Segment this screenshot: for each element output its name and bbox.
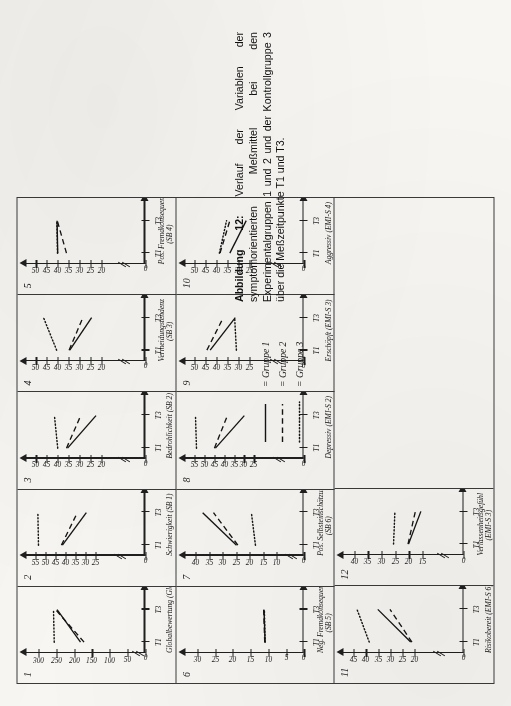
series-line-dotted [234,318,236,351]
series-lines [348,592,463,653]
y-tick-label: 20 [245,558,254,565]
y-tick-label: 0 [299,655,308,659]
series-line-dashed [408,512,415,545]
y-tick-label: 15 [258,558,267,565]
x-tick-label: T1 [153,541,162,549]
series-lines [31,204,145,264]
y-tick-label: 55 [30,558,39,565]
panel-axis-title: Bedrohlichkeit (SB 2) [165,398,173,458]
y-tick-label: 50 [190,364,199,371]
panel-number: 6 [180,672,191,677]
panel-axis-title: Aggressiv (EMI-S 4) [324,204,332,264]
y-tick-label: 250 [51,655,60,666]
y-tick-label: 35 [70,558,79,565]
panel-axis-title: Schwierigkeit (SB 1) [165,496,173,556]
caption-label: Abbildung 12: [232,215,244,302]
y-tick-label: 45 [42,461,51,468]
series-line-dotted [43,318,56,351]
panel-number: 3 [21,478,32,483]
y-tick-label: 0 [458,655,467,659]
series-line-dashed [219,221,229,254]
panel-axis-title: Neg. Fremdkonsequenz(SB 5) [316,593,332,653]
x-tick-label: T3 [311,217,320,225]
y-tick-label: 40 [349,558,358,565]
y-tick-label: 0 [299,461,308,465]
panel-axis-title-line1: Globalbewertung (Glob) [165,593,173,653]
x-tick-label: T3 [311,314,320,322]
y-tick-label: 15 [246,655,255,662]
y-tick-label: 25 [231,558,240,565]
y-tick-label: 35 [64,461,73,468]
series-line-dotted [393,512,394,545]
y-tick-label: 30 [233,364,242,371]
y-tick-label: 25 [210,655,219,662]
panel-axis-title-line1: Erschöpft (EMI-S 3) [324,301,332,361]
panel-number: 9 [180,380,191,385]
plot-area: 0152025303540T1T3Verlassenheitsgefühl(EM… [348,495,463,556]
x-tick-label: T1 [471,638,480,646]
x-tick-label: T3 [153,606,162,614]
plot-area: 020253035404550T1T3Vermeidungstendenz(SB… [31,301,145,361]
y-tick-label: 45 [50,558,59,565]
panel-axis-title: Depressiv (EMI-S 2) [324,398,332,458]
series-line-solid [62,512,86,545]
y-tick-label: 30 [80,558,89,565]
series-lines [31,593,145,653]
panel-number: 1 [21,672,32,677]
x-tick-label: T1 [311,249,320,257]
y-tick-label: 35 [64,364,73,371]
legend-item-gruppe-1: = Gruppe 1 [256,324,273,444]
series-line-dotted [357,609,369,642]
series-line-dashed [213,512,237,545]
y-tick-label: 20 [96,364,105,371]
panel-axis-title-line1: Bedrohlichkeit (SB 2) [165,398,173,458]
y-tick-label: 30 [377,558,386,565]
y-tick-label: 35 [64,267,73,274]
panel-9: 90253035404550T1T3Erschöpft (EMI-S 3) [176,294,335,391]
y-tick-label: 300 [34,655,43,666]
y-tick-label: 5 [281,655,290,659]
panel-11: 110202530354045T1T3Risikobereit (EMI-S 6… [334,585,493,683]
rotated-figure-container: 1050100150200250300T1T3Globalbewertung (… [0,0,511,706]
series-lines [31,496,145,556]
y-tick-label: 40 [53,267,62,274]
series-line-dotted [251,512,255,545]
legend-item-gruppe-2: = Gruppe 2 [273,324,290,444]
plot-area: 050100150200250300T1T3Globalbewertung (G… [31,593,145,653]
y-tick-label: 0 [140,558,149,562]
y-tick-label: 35 [204,558,213,565]
y-tick-label: 35 [229,461,238,468]
series-line-dashed [66,415,80,448]
panel-axis-title: Verlassenheitsgefühl(EMI-S 3) [476,495,492,556]
legend-key-dotted-icon [294,392,304,444]
panel-number: 2 [21,575,32,580]
panel-axis-title-line1: Risikobereit (EMI-S 6) [484,592,492,653]
plot-area: 010152025303540T1T3Pos. Selbsteinschätzu… [190,496,304,556]
panel-axis-title: Risikobereit (EMI-S 6) [484,592,492,653]
panel-empty-b [334,295,493,392]
series-lines [31,398,145,458]
panel-number: 4 [21,380,32,385]
y-tick-label: 55 [189,461,198,468]
series-line-dotted [53,610,54,643]
panel-row-3: 110202530354045T1T3Risikobereit (EMI-S 6… [334,198,493,683]
y-tick-label: 30 [218,558,227,565]
series-line-dotted [37,512,38,545]
panel-axis-title: Erschöpft (EMI-S 3) [324,301,332,361]
y-tick-label: 0 [140,364,149,368]
y-tick-label: 40 [191,558,200,565]
panel-axis-title-line2: (EMI-S 3) [484,495,492,556]
panel-axis-title-line1: Depressiv (EMI-S 2) [324,398,332,458]
y-tick-label: 45 [209,461,218,468]
y-tick-label: 30 [75,267,84,274]
y-tick-label: 40 [211,267,220,274]
panel-5: 5020253035404550T1T3Pos. Fremdkonsequenz… [17,198,176,294]
x-tick-label: T3 [471,605,480,613]
y-tick-label: 0 [140,267,149,271]
y-tick-label: 30 [192,655,201,662]
panel-axis-title-line2: (SB 6) [324,496,332,556]
series-line-solid [215,415,244,448]
plot-area: 051015202530T1T3Neg. Fremdkonsequenz(SB … [190,593,304,653]
series-lines [31,301,145,361]
series-lines [348,495,463,556]
